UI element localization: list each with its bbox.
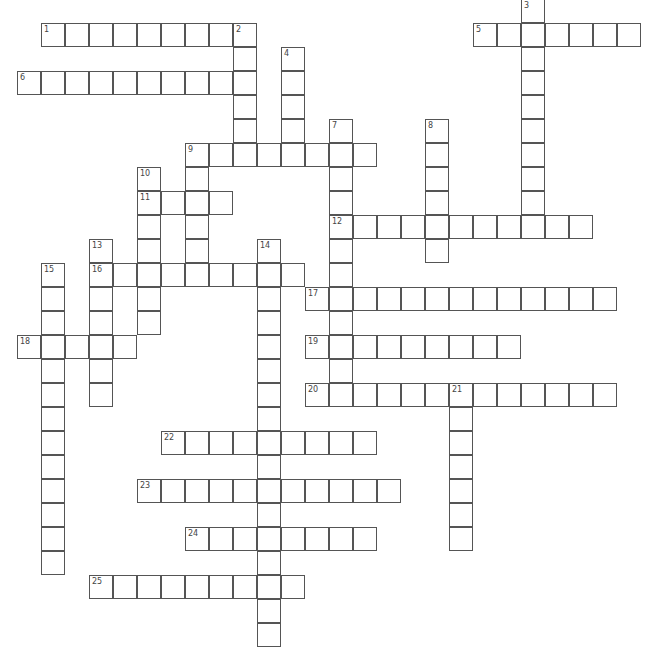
letter-input[interactable] — [114, 576, 136, 598]
letter-input[interactable] — [186, 144, 208, 166]
letter-input[interactable] — [474, 384, 496, 406]
crossword-cell[interactable] — [329, 167, 353, 191]
crossword-cell[interactable] — [137, 71, 161, 95]
crossword-cell[interactable] — [281, 575, 305, 599]
crossword-cell[interactable] — [569, 383, 593, 407]
letter-input[interactable] — [42, 288, 64, 310]
letter-input[interactable] — [498, 24, 520, 46]
letter-input[interactable] — [330, 240, 352, 262]
letter-input[interactable] — [474, 336, 496, 358]
crossword-cell[interactable] — [89, 383, 113, 407]
letter-input[interactable] — [450, 480, 472, 502]
letter-input[interactable] — [186, 432, 208, 454]
letter-input[interactable] — [42, 432, 64, 454]
letter-input[interactable] — [234, 264, 256, 286]
crossword-cell[interactable] — [569, 215, 593, 239]
letter-input[interactable] — [426, 288, 448, 310]
crossword-cell[interactable] — [425, 167, 449, 191]
letter-input[interactable] — [186, 192, 208, 214]
letter-input[interactable] — [522, 384, 544, 406]
crossword-cell[interactable] — [521, 95, 545, 119]
letter-input[interactable] — [282, 432, 304, 454]
letter-input[interactable] — [330, 264, 352, 286]
letter-input[interactable] — [234, 120, 256, 142]
letter-input[interactable] — [522, 96, 544, 118]
letter-input[interactable] — [570, 24, 592, 46]
letter-input[interactable] — [210, 72, 232, 94]
letter-input[interactable] — [210, 264, 232, 286]
crossword-cell[interactable] — [425, 239, 449, 263]
letter-input[interactable] — [138, 240, 160, 262]
letter-input[interactable] — [162, 576, 184, 598]
letter-input[interactable] — [426, 336, 448, 358]
letter-input[interactable] — [498, 288, 520, 310]
crossword-cell[interactable] — [329, 359, 353, 383]
letter-input[interactable] — [498, 216, 520, 238]
crossword-cell[interactable]: 25 — [89, 575, 113, 599]
crossword-cell[interactable] — [209, 479, 233, 503]
letter-input[interactable] — [114, 336, 136, 358]
crossword-cell[interactable] — [41, 551, 65, 575]
crossword-cell[interactable] — [401, 215, 425, 239]
crossword-cell[interactable] — [113, 71, 137, 95]
letter-input[interactable] — [402, 384, 424, 406]
letter-input[interactable] — [42, 408, 64, 430]
crossword-cell[interactable]: 22 — [161, 431, 185, 455]
letter-input[interactable] — [426, 240, 448, 262]
crossword-cell[interactable] — [233, 431, 257, 455]
crossword-cell[interactable] — [521, 215, 545, 239]
letter-input[interactable] — [426, 144, 448, 166]
letter-input[interactable] — [306, 288, 328, 310]
letter-input[interactable] — [90, 72, 112, 94]
letter-input[interactable] — [522, 144, 544, 166]
crossword-cell[interactable] — [305, 431, 329, 455]
crossword-cell[interactable] — [497, 383, 521, 407]
letter-input[interactable] — [330, 480, 352, 502]
crossword-cell[interactable] — [209, 263, 233, 287]
letter-input[interactable] — [426, 120, 448, 142]
letter-input[interactable] — [474, 288, 496, 310]
crossword-cell[interactable] — [521, 383, 545, 407]
letter-input[interactable] — [402, 288, 424, 310]
crossword-cell[interactable]: 23 — [137, 479, 161, 503]
crossword-cell[interactable]: 15 — [41, 263, 65, 287]
crossword-cell[interactable] — [257, 623, 281, 647]
letter-input[interactable] — [546, 384, 568, 406]
crossword-cell[interactable] — [209, 575, 233, 599]
letter-input[interactable] — [138, 192, 160, 214]
crossword-cell[interactable] — [521, 71, 545, 95]
crossword-cell[interactable] — [161, 263, 185, 287]
letter-input[interactable] — [498, 384, 520, 406]
letter-input[interactable] — [378, 288, 400, 310]
crossword-cell[interactable] — [41, 359, 65, 383]
crossword-cell[interactable]: 10 — [137, 167, 161, 191]
letter-input[interactable] — [402, 216, 424, 238]
letter-input[interactable] — [498, 336, 520, 358]
crossword-cell[interactable] — [329, 527, 353, 551]
letter-input[interactable] — [354, 432, 376, 454]
crossword-cell[interactable] — [545, 287, 569, 311]
crossword-cell[interactable] — [281, 71, 305, 95]
crossword-cell[interactable] — [545, 23, 569, 47]
crossword-cell[interactable] — [329, 143, 353, 167]
crossword-cell[interactable] — [353, 287, 377, 311]
crossword-cell[interactable] — [329, 383, 353, 407]
letter-input[interactable] — [234, 96, 256, 118]
letter-input[interactable] — [186, 24, 208, 46]
crossword-cell[interactable]: 2 — [233, 23, 257, 47]
letter-input[interactable] — [186, 528, 208, 550]
letter-input[interactable] — [546, 216, 568, 238]
letter-input[interactable] — [258, 264, 280, 286]
crossword-cell[interactable] — [425, 335, 449, 359]
letter-input[interactable] — [522, 72, 544, 94]
crossword-cell[interactable] — [41, 527, 65, 551]
letter-input[interactable] — [258, 144, 280, 166]
crossword-cell[interactable] — [353, 383, 377, 407]
crossword-cell[interactable] — [41, 407, 65, 431]
crossword-cell[interactable] — [257, 455, 281, 479]
crossword-cell[interactable] — [545, 383, 569, 407]
letter-input[interactable] — [210, 480, 232, 502]
letter-input[interactable] — [258, 504, 280, 526]
letter-input[interactable] — [570, 384, 592, 406]
crossword-cell[interactable] — [137, 239, 161, 263]
